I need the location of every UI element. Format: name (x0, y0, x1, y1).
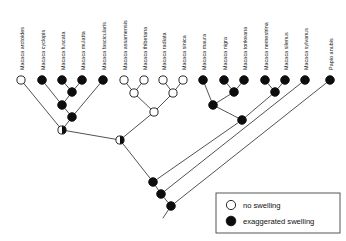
tip-node-fascicularis (99, 76, 108, 85)
tip-node-radiata (159, 76, 167, 84)
internal-node-cyclopis-clade (58, 101, 67, 110)
legend: no swelling exaggerated swelling (216, 193, 340, 233)
internal-node-assamensis-thibetana (130, 89, 138, 97)
tip-node-sylvanus (301, 76, 310, 85)
tip-node-cyclopis (38, 76, 47, 85)
legend-label-exaggerated-swelling: exaggerated swelling (243, 217, 314, 226)
tip-label-sinica: Macaca sinica (181, 35, 187, 70)
tip-label-cyclopis: Macaca cyclopis (40, 29, 46, 70)
legend-filled-circle-icon (226, 216, 236, 226)
branch-silgrp-root (120, 140, 153, 182)
legend-box (216, 193, 340, 233)
tip-label-thibetana: Macaca thibetana (142, 27, 148, 70)
tip-label-maura: Macaca maura (201, 34, 207, 70)
tip-node-fuscata (58, 76, 67, 85)
tip-node-sinica (179, 76, 187, 84)
branch-arctoides (21, 80, 62, 130)
branch-fascicularis (72, 80, 103, 117)
internal-node-silenus-sulawesi (238, 116, 247, 125)
branch-arctgrp-up (62, 130, 120, 140)
internal-node-radiata-sinica (169, 89, 177, 97)
branch-silsul-root (153, 120, 242, 182)
internal-node-arctoides-clade (58, 126, 66, 134)
internal-node-sulawesi-group (209, 101, 218, 110)
tip-node-nigra (220, 76, 229, 85)
branch-papio (171, 80, 330, 206)
phylogenetic-tree-figure: Macaca arctoides Macaca cyclopis Macaca … (0, 0, 346, 241)
tip-node-silenus (281, 76, 290, 85)
tip-node-thibetana (140, 76, 148, 84)
branch-sinicagrp-up (120, 112, 154, 140)
tip-label-nigra: Macaca nigra (222, 37, 228, 70)
tip-label-sylvanus: Macaca sylvanus (303, 28, 309, 70)
legend-label-no-swelling: no swelling (243, 201, 281, 210)
tip-label-radiata: Macaca radiata (161, 32, 167, 70)
branch-silgrp-up (242, 92, 275, 120)
tip-label-assamensis: Macaca assamensis (122, 20, 128, 70)
internal-node-sinica-fascicularis-ancestor (116, 136, 124, 144)
tip-label-mulatta: Macaca mulatta (80, 31, 86, 70)
tip-nodes (17, 76, 334, 85)
tip-label-fascicularis: Macaca fascicularis (101, 22, 107, 70)
tip-label-nemestrina: Macaca nemestrina (263, 22, 269, 70)
tip-node-nemestrina (261, 76, 270, 85)
internal-node-root (167, 202, 176, 211)
branch-cyclopis (42, 80, 62, 105)
branch-sulawesi-up (213, 105, 242, 120)
tip-label-fuscata: Macaca fuscata (60, 32, 66, 70)
tip-node-papio-anubis (326, 76, 335, 85)
branch-sylvanus (161, 80, 305, 194)
internal-node-sylvanus-split (157, 190, 166, 199)
internal-node-macaca-crown (149, 178, 158, 187)
tip-node-tonkeana (240, 76, 249, 85)
tip-label-arctoides: Macaca arctoides (19, 27, 25, 70)
legend-open-circle-icon (226, 200, 235, 209)
internal-node-sinica-group (150, 108, 158, 116)
internal-nodes (58, 88, 280, 211)
tip-node-assamensis (120, 76, 128, 84)
internal-node-fascicularis-group (68, 113, 77, 122)
tip-label-papio-anubis: Papio anubis (328, 38, 334, 70)
internal-node-fuscata-mulatta (68, 88, 77, 97)
tip-label-tonkeana: Macaca tonkeana (242, 27, 248, 70)
tip-label-silenus: Macaca silenus (283, 32, 289, 70)
internal-node-silenus-group (271, 88, 280, 97)
tip-node-arctoides (17, 76, 25, 84)
internal-node-nigra-tonkeana (230, 88, 239, 97)
tip-node-maura (199, 76, 208, 85)
tip-labels: Macaca arctoides Macaca cyclopis Macaca … (19, 20, 334, 70)
tip-node-mulatta (78, 76, 87, 85)
